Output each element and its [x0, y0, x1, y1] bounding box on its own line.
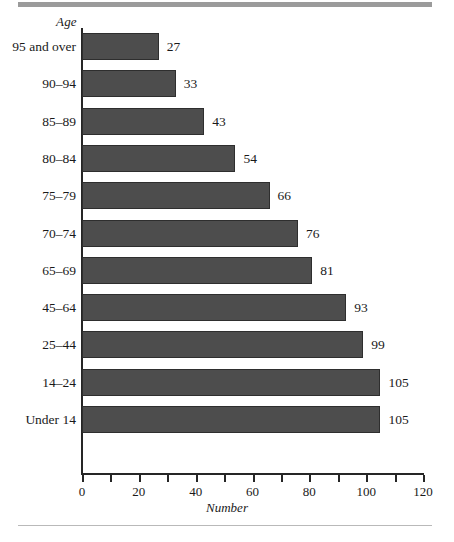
bar — [82, 406, 380, 433]
bar-value-label: 54 — [243, 145, 257, 172]
figure: Age 020406080100120 95 and over2790–9433… — [0, 0, 454, 542]
x-axis-tick — [196, 475, 198, 482]
bar — [82, 331, 363, 358]
bar-value-label: 43 — [212, 108, 226, 135]
bar-category-label: 65–69 — [0, 257, 76, 284]
x-axis-tick — [281, 475, 283, 482]
bar-value-label: 81 — [320, 257, 334, 284]
x-axis-tick-label: 120 — [403, 484, 443, 500]
bar-category-label: 14–24 — [0, 369, 76, 396]
bar-value-label: 33 — [184, 70, 198, 97]
bar-value-label: 27 — [167, 33, 181, 60]
x-axis-tick — [110, 475, 112, 482]
bar-value-label: 66 — [278, 182, 292, 209]
x-axis-tick — [253, 475, 255, 482]
bar-category-label: Under 14 — [0, 406, 76, 433]
x-axis-tick — [224, 475, 226, 482]
x-axis-tick-label: 60 — [233, 484, 273, 500]
bar — [82, 108, 204, 135]
bar — [82, 294, 346, 321]
bar-category-label: 70–74 — [0, 220, 76, 247]
x-axis-tick-label: 40 — [176, 484, 216, 500]
bar — [82, 220, 298, 247]
y-axis-title: Age — [56, 14, 77, 30]
x-axis-tick — [309, 475, 311, 482]
bar — [82, 145, 235, 172]
bar-category-label: 45–64 — [0, 294, 76, 321]
bar — [82, 182, 270, 209]
x-axis-tick — [167, 475, 169, 482]
x-axis-title-text: Number — [206, 500, 248, 515]
bar — [82, 33, 159, 60]
bar-category-label: 95 and over — [0, 33, 76, 60]
x-axis-tick-label: 0 — [62, 484, 102, 500]
bar-category-label: 90–94 — [0, 70, 76, 97]
bar-chart-plot: Age 020406080100120 95 and over2790–9433… — [0, 0, 454, 542]
bar-category-label: 85–89 — [0, 108, 76, 135]
bar — [82, 369, 380, 396]
bar-category-label: 75–79 — [0, 182, 76, 209]
x-axis-tick-label: 80 — [289, 484, 329, 500]
x-axis-tick — [366, 475, 368, 482]
x-axis-tick — [139, 475, 141, 482]
x-axis-tick-label: 20 — [119, 484, 159, 500]
bar-value-label: 105 — [388, 406, 408, 433]
bar — [82, 257, 312, 284]
bar-category-label: 80–84 — [0, 145, 76, 172]
x-axis-tick-label: 100 — [346, 484, 386, 500]
bar-category-label: 25–44 — [0, 331, 76, 358]
bar-value-label: 99 — [371, 331, 385, 358]
bar-value-label: 76 — [306, 220, 320, 247]
x-axis-tick — [423, 475, 425, 482]
x-axis-title: Number — [0, 500, 454, 516]
bar-value-label: 93 — [354, 294, 368, 321]
bar — [82, 70, 176, 97]
x-axis-tick — [82, 475, 84, 482]
x-axis-tick — [338, 475, 340, 482]
bar-value-label: 105 — [388, 369, 408, 396]
x-axis-tick — [395, 475, 397, 482]
